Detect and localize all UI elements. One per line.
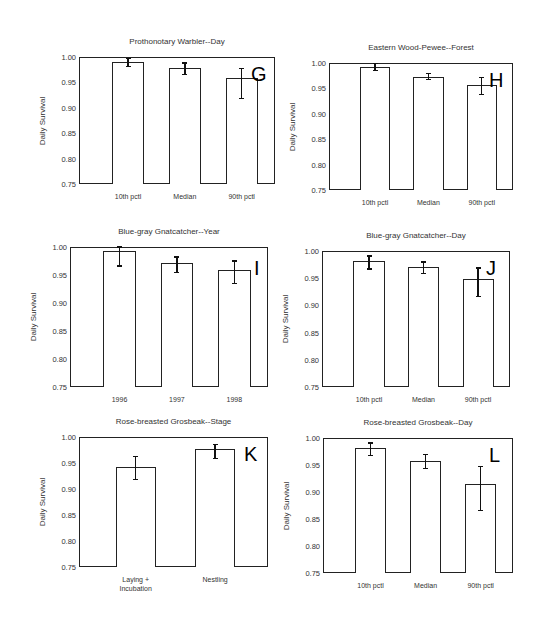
x-tick-label: 90th pctl (467, 581, 493, 590)
bar-2 (413, 77, 443, 190)
bar-2 (161, 263, 194, 387)
y-axis-label: Daily Survival (29, 293, 38, 341)
y-tick-label: 0.90 (291, 301, 319, 310)
error-bar-cap (479, 77, 484, 78)
plot-area (79, 437, 268, 567)
x-tick-label: 10th pctl (356, 395, 382, 404)
y-tick-label: 1.00 (48, 433, 76, 442)
y-tick-label: 1.00 (48, 53, 76, 62)
y-tick-label: 1.00 (292, 434, 320, 443)
x-tick-label: 90th pctl (465, 395, 491, 404)
error-bar-cap (174, 256, 179, 257)
y-tick-label: 0.85 (48, 511, 76, 520)
error-bar (135, 457, 136, 480)
error-bar (176, 257, 177, 273)
y-tick-label: 0.75 (292, 569, 320, 578)
y-tick-label: 0.75 (48, 180, 76, 189)
y-axis-label: Daily Survival (38, 96, 47, 144)
bar-3 (218, 270, 251, 387)
x-tick-label: 1998 (227, 395, 243, 404)
y-tick-label: 0.85 (292, 515, 320, 524)
bar-1 (360, 67, 390, 190)
y-tick-label: 1.00 (39, 243, 67, 252)
y-tick-label: 0.80 (39, 355, 67, 364)
chart-title: Prothonotary Warbler--Day (129, 37, 224, 46)
x-tick-label: Nestling (202, 575, 227, 584)
panel-letter: K (244, 443, 257, 466)
y-axis-label: Daily Survival (38, 478, 47, 526)
error-bar-cap (426, 73, 431, 74)
y-tick-label: 0.80 (48, 537, 76, 546)
error-bar-cap (478, 510, 483, 511)
error-bar-cap (232, 260, 237, 261)
y-tick-label: 0.85 (48, 129, 76, 138)
error-bar-cap (126, 58, 131, 59)
y-tick-label: 0.95 (292, 461, 320, 470)
y-tick-label: 0.90 (48, 103, 76, 112)
y-tick-label: 0.80 (298, 160, 326, 169)
y-tick-label: 1.00 (291, 247, 319, 256)
error-bar-cap (174, 272, 179, 273)
y-axis-label: Daily Survival (281, 295, 290, 343)
error-bar-cap (367, 268, 372, 269)
y-tick-label: 0.80 (292, 542, 320, 551)
error-bar-cap (421, 261, 426, 262)
y-tick-label: 0.95 (48, 78, 76, 87)
y-tick-label: 0.75 (48, 563, 76, 572)
error-bar-cap (373, 63, 378, 64)
error-bar (119, 247, 120, 266)
bar-2 (195, 449, 235, 567)
x-tick-label: Median (417, 198, 440, 207)
y-tick-label: 0.90 (292, 488, 320, 497)
error-bar-cap (423, 454, 428, 455)
x-tick-label: 10th pctl (362, 198, 388, 207)
x-tick-label: 1996 (112, 395, 128, 404)
error-bar-cap (213, 444, 218, 445)
error-bar-cap (239, 98, 244, 99)
y-tick-label: 0.75 (291, 383, 319, 392)
y-tick-label: 0.80 (291, 355, 319, 364)
error-bar (425, 454, 426, 468)
error-bar (480, 467, 481, 511)
bar-2 (169, 68, 201, 184)
error-bar-cap (373, 70, 378, 71)
bar-3 (467, 85, 497, 190)
bar-2 (410, 461, 441, 573)
y-tick-label: 0.90 (48, 485, 76, 494)
bar-2 (408, 267, 439, 387)
y-tick-label: 0.95 (48, 459, 76, 468)
y-tick-label: 0.90 (298, 109, 326, 118)
chart-title: Rose-breasted Grosbeak--Day (364, 418, 473, 427)
error-bar-cap (239, 68, 244, 69)
error-bar-cap (368, 455, 373, 456)
x-tick-label: Median (414, 581, 437, 590)
error-bar-cap (182, 74, 187, 75)
x-tick-label: 10th pctl (115, 192, 141, 201)
y-tick-label: 0.85 (298, 135, 326, 144)
chart-title: Blue-gray Gnatcatcher--Year (118, 227, 220, 236)
error-bar-cap (117, 265, 122, 266)
error-bar-cap (421, 273, 426, 274)
error-bar-cap (133, 456, 138, 457)
chart-title: Eastern Wood-Pewee--Forest (368, 43, 474, 52)
error-bar-cap (368, 442, 373, 443)
y-tick-label: 0.90 (39, 299, 67, 308)
y-tick-label: 0.85 (291, 328, 319, 337)
error-bar (214, 444, 215, 458)
y-tick-label: 0.95 (298, 84, 326, 93)
chart-title: Rose-breasted Grosbeak--Stage (116, 417, 232, 426)
x-tick-label: Median (412, 395, 435, 404)
error-bar (423, 262, 424, 273)
error-bar-cap (423, 468, 428, 469)
y-tick-label: 0.80 (48, 154, 76, 163)
error-bar (370, 443, 371, 455)
error-bar-cap (213, 458, 218, 459)
error-bar (241, 68, 242, 98)
y-tick-label: 0.95 (39, 271, 67, 280)
y-tick-label: 0.85 (39, 327, 67, 336)
panel-letter: I (254, 257, 260, 280)
x-tick-label: Laying + Incubation (112, 575, 160, 593)
y-axis-label: Daily Survival (282, 481, 291, 529)
panel-letter: J (486, 257, 496, 280)
y-tick-label: 0.95 (291, 274, 319, 283)
